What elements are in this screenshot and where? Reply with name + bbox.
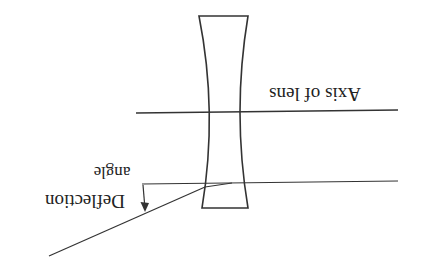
lens-diagram: Axis of lens angle Deflection <box>0 0 424 272</box>
deflection-angle-label-line1: Deflection <box>44 191 125 212</box>
lens-axis-line <box>136 110 398 113</box>
deflection-angle-arrow <box>141 185 150 212</box>
deflection-angle-label-line2: angle <box>94 163 131 182</box>
axis-of-lens-label: Axis of lens <box>269 84 361 105</box>
angle-arrow-head <box>141 202 150 212</box>
incident-ray-line <box>142 181 398 184</box>
